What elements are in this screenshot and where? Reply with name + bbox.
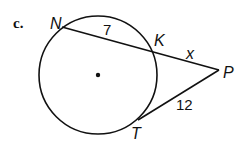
geometry-figure: c. N K P T 7 x 12: [0, 0, 247, 144]
point-label-K: K: [154, 32, 166, 49]
segment-label-KP: x: [185, 45, 195, 62]
segment-label-TP: 12: [176, 96, 193, 113]
point-label-N: N: [50, 15, 62, 32]
segment-label-NK: 7: [103, 21, 111, 38]
point-label-P: P: [223, 64, 234, 81]
part-label: c.: [13, 15, 24, 31]
center-point: [96, 73, 100, 77]
point-label-T: T: [131, 125, 142, 142]
